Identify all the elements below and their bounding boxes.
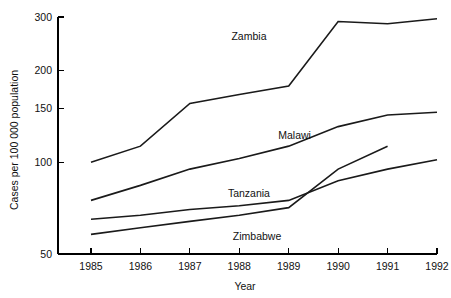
- x-axis-tick-label: 1989: [277, 260, 301, 272]
- series-label-zimbabwe: Zimbabwe: [233, 230, 282, 242]
- x-axis-title: Year: [234, 280, 256, 292]
- y-axis-title: Cases per 100 000 population: [8, 70, 20, 210]
- x-axis-tick-label: 1992: [425, 260, 449, 272]
- chart-axes: [58, 17, 437, 254]
- x-axis-tick-label: 1988: [228, 260, 252, 272]
- y-axis-tick-label: 50: [40, 248, 52, 260]
- x-axis-tick-label: 1986: [129, 260, 153, 272]
- x-axis-tick-label: 1990: [326, 260, 350, 272]
- x-axis-tick-label: 1991: [376, 260, 400, 272]
- x-axis-tick-labels: 19851986198719881989199019911992: [79, 260, 449, 272]
- x-axis-tick-label: 1985: [79, 260, 103, 272]
- y-axis-tick-label: 150: [34, 102, 52, 114]
- chart-series-lines: [91, 19, 437, 235]
- x-axis-tick-label: 1987: [178, 260, 202, 272]
- series-label-tanzania: Tanzania: [228, 187, 270, 199]
- chart-tick-marks: [58, 17, 437, 254]
- y-axis-tick-label: 300: [34, 11, 52, 23]
- line-chart: 50100150200300 1985198619871988198919901…: [0, 0, 451, 298]
- series-label-malawi: Malawi: [278, 129, 311, 141]
- chart-container: 50100150200300 1985198619871988198919901…: [0, 0, 451, 298]
- y-axis-tick-labels: 50100150200300: [34, 11, 52, 260]
- y-axis-tick-label: 100: [34, 156, 52, 168]
- y-axis-tick-label: 200: [34, 64, 52, 76]
- series-label-zambia: Zambia: [231, 30, 266, 42]
